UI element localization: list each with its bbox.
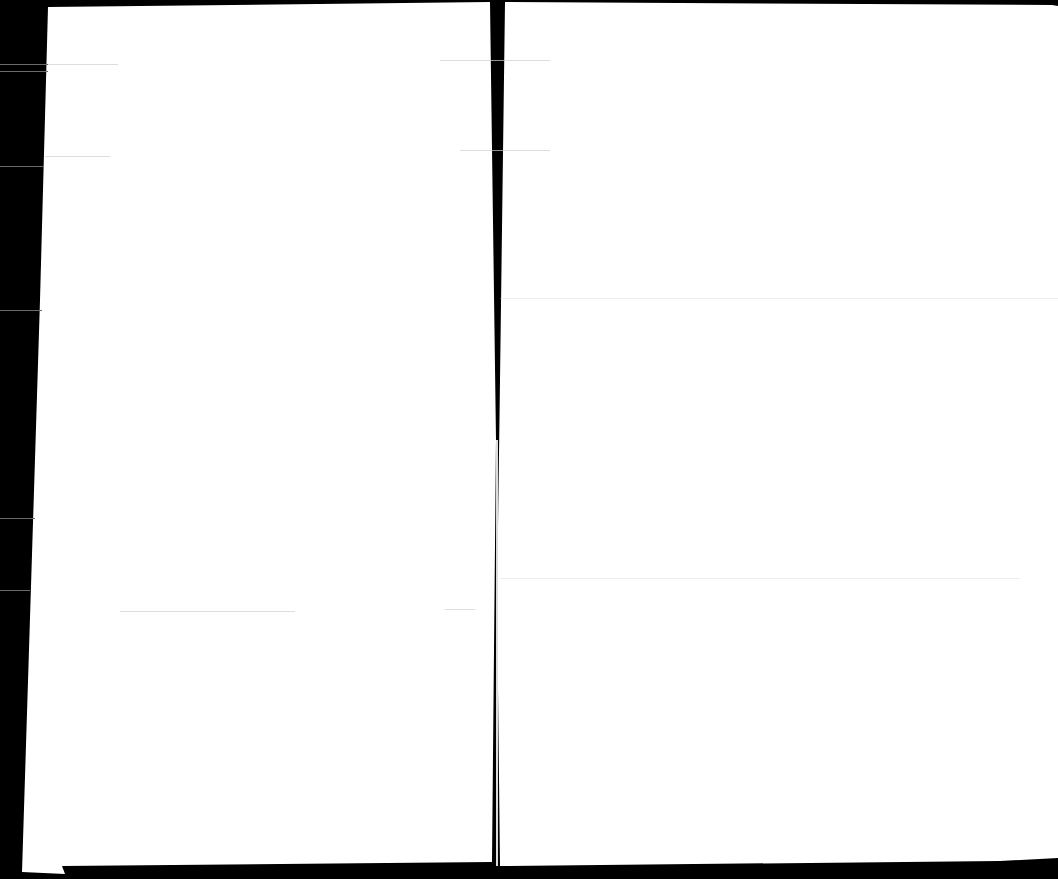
scan-streak [0, 64, 48, 65]
scan-streak [0, 518, 35, 519]
scan-streak [440, 60, 550, 61]
scan-streak [48, 64, 118, 65]
gutter-fold [496, 440, 498, 866]
scan-streak [0, 310, 42, 311]
scan-streak [500, 298, 1058, 299]
scanned-spread [0, 0, 1058, 879]
scan-streak [45, 156, 110, 157]
scan-streak [120, 611, 295, 612]
scan-streak [460, 150, 550, 151]
scan-streak [0, 590, 30, 591]
scan-streak [0, 71, 48, 72]
scan-streak [0, 166, 44, 167]
scan-streak [445, 609, 475, 610]
scan-streak [500, 578, 1020, 579]
